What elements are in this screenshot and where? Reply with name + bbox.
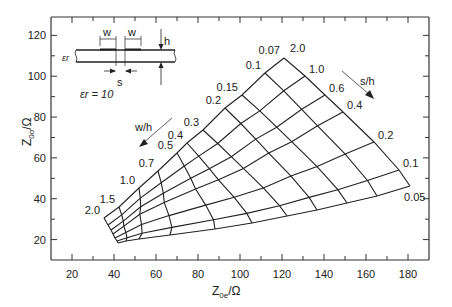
wh-curve-2.0 — [104, 218, 118, 243]
wh-label: 0.3 — [184, 116, 199, 128]
y-axis-label: Z0o/Ω — [20, 117, 36, 146]
wh-label: 0.7 — [139, 157, 154, 169]
y-tick-label: 40 — [34, 193, 46, 205]
wh-curve-0.15 — [242, 95, 347, 203]
wh-curve-0.5 — [177, 153, 215, 229]
x-tick-label: 120 — [273, 268, 291, 280]
sh-label: 0.6 — [329, 82, 344, 94]
x-axis-label: Z0e/Ω — [212, 284, 241, 300]
wh-curve-0.3 — [203, 130, 287, 216]
sh-label: 0.2 — [378, 129, 393, 141]
wh-label: 0.07 — [259, 44, 280, 56]
coupled-microstrip-chart: 2040608010012014016018020406080100120 Z0… — [0, 0, 452, 307]
inset-label-er: εr — [62, 53, 70, 63]
sh-label: 0.05 — [404, 191, 425, 203]
wh-label: 0.1 — [246, 59, 261, 71]
y-tick-label: 60 — [34, 152, 46, 164]
wh-arrow-label: w/h — [134, 121, 152, 133]
sh-label: 0.4 — [347, 99, 362, 111]
sh-label: 2.0 — [290, 42, 305, 54]
x-tick-label: 180 — [399, 268, 417, 280]
inset-label-w1: w — [102, 26, 111, 38]
y-tick-label: 100 — [28, 70, 46, 82]
wh-label: 0.15 — [217, 81, 238, 93]
wh-label: 2.0 — [85, 204, 100, 216]
sh-label: 0.1 — [403, 157, 418, 169]
x-tick-label: 160 — [357, 268, 375, 280]
sh-label: 1.0 — [309, 63, 324, 75]
wh-label: 1.0 — [120, 174, 135, 186]
x-tick-label: 20 — [66, 268, 78, 280]
coupled-line-cross-section — [75, 29, 176, 85]
y-tick-label: 20 — [34, 234, 46, 246]
inset-label-h: h — [164, 35, 170, 47]
wh-label: 0.5 — [158, 139, 173, 151]
wh-label: 0.2 — [206, 94, 221, 106]
x-tick-label: 40 — [108, 268, 120, 280]
inset-label-w2: w — [127, 26, 136, 38]
x-tick-label: 140 — [315, 268, 333, 280]
sh-arrow-label: s/h — [360, 75, 375, 87]
inset-label-s: s — [117, 76, 123, 88]
y-tick-label: 80 — [34, 111, 46, 123]
wh-curve-0.4 — [187, 143, 252, 223]
x-tick-label: 60 — [150, 268, 162, 280]
wh-label: 1.5 — [100, 193, 115, 205]
y-tick-label: 120 — [28, 29, 46, 41]
sh-curve-0.1 — [117, 170, 399, 241]
x-tick-label: 80 — [192, 268, 204, 280]
er-annotation: εr = 10 — [80, 88, 114, 100]
axis-tick-labels: 2040608010012014016018020406080100120 — [28, 29, 418, 280]
wh-curve-0.2 — [225, 108, 317, 210]
x-tick-label: 100 — [231, 268, 249, 280]
